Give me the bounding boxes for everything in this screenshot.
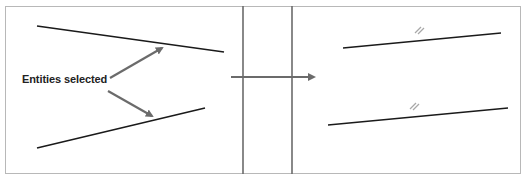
after-line-bottom	[328, 108, 508, 125]
diagram-canvas	[0, 0, 526, 180]
entities-selected-label: Entities selected	[22, 73, 107, 85]
selection-arrow-down-icon	[108, 91, 152, 116]
before-line-bottom	[37, 108, 205, 148]
parallel-constraint-icon	[410, 103, 419, 110]
selection-arrow-up-icon	[110, 48, 162, 78]
parallel-constraint-icon	[415, 27, 424, 34]
before-line-top	[37, 26, 224, 52]
after-line-top	[343, 33, 501, 48]
